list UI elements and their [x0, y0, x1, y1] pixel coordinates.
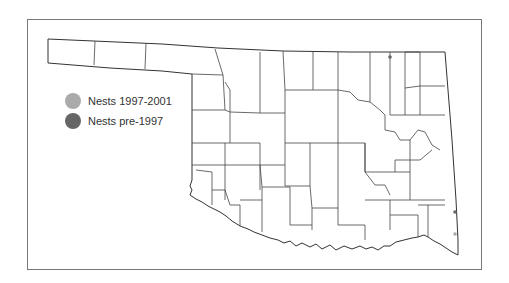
nest-point-pre-1997	[453, 210, 457, 214]
legend-swatch-recent	[65, 93, 81, 109]
legend-swatch-old	[65, 113, 81, 129]
legend: Nests 1997-2001 Nests pre-1997	[65, 93, 172, 129]
county-lines	[48, 39, 458, 255]
nest-point-1997-2001	[453, 232, 457, 236]
state-outline	[48, 39, 458, 255]
legend-label-old: Nests pre-1997	[88, 115, 163, 127]
oklahoma-county-map: Nests 1997-2001 Nests pre-1997	[0, 0, 509, 283]
nest-points	[388, 55, 457, 236]
legend-label-recent: Nests 1997-2001	[88, 95, 172, 107]
nest-point-pre-1997	[388, 55, 392, 59]
